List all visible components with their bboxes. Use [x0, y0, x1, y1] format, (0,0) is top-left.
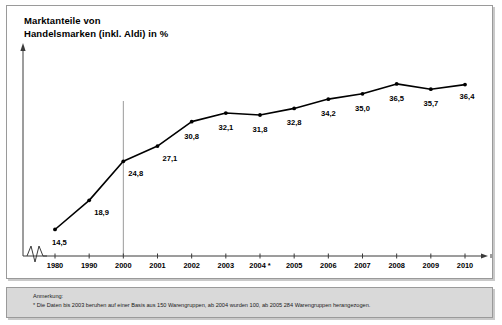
- x-tick-label: 2000: [115, 261, 131, 270]
- data-value-label: 31,8: [253, 125, 268, 134]
- data-value-label: 24,8: [128, 169, 143, 178]
- data-point-marker: [190, 120, 194, 124]
- data-value-label: 14,5: [52, 238, 68, 247]
- footnote-panel: Anmerkung: * Die Daten bis 2003 beruhen …: [6, 287, 493, 318]
- chart-panel: Marktanteile von Handelsmarken (inkl. Al…: [6, 5, 493, 279]
- x-tick-label: 1980: [47, 261, 63, 270]
- data-value-label: 18,9: [94, 208, 109, 217]
- data-value-label: 36,5: [389, 94, 405, 103]
- x-tick-label: 2001: [149, 261, 165, 270]
- x-tick-label: 2004 *: [249, 261, 270, 270]
- x-tick-label: 2008: [388, 261, 404, 270]
- x-tick-label: 2003: [218, 261, 234, 270]
- data-point-marker: [395, 82, 399, 86]
- data-value-label: 32,1: [218, 123, 234, 132]
- data-point-marker: [87, 198, 91, 202]
- x-tick-label: 2006: [320, 261, 336, 270]
- data-point-marker: [121, 159, 125, 163]
- data-point-marker: [224, 111, 228, 115]
- data-point-marker: [258, 113, 262, 117]
- data-value-label: 36,4: [460, 92, 476, 101]
- data-value-label: 34,2: [321, 109, 336, 118]
- x-tick-label: 2005: [286, 261, 302, 270]
- x-tick-label: 2002: [183, 261, 199, 270]
- data-point-marker: [429, 87, 433, 91]
- data-value-label: 35,7: [423, 99, 438, 108]
- data-value-label: 30,8: [184, 132, 199, 141]
- data-value-label: 27,1: [163, 154, 179, 163]
- x-tick-label: 1990: [81, 261, 97, 270]
- data-value-label: 32,8: [287, 118, 302, 127]
- data-point-marker: [463, 83, 467, 87]
- data-point-marker: [53, 228, 57, 232]
- x-tick-label: 2010: [457, 261, 473, 270]
- x-tick-label: 2009: [423, 261, 439, 270]
- chart-screenshot: Marktanteile von Handelsmarken (inkl. Al…: [0, 0, 502, 325]
- footnote-label: Anmerkung:: [33, 293, 63, 299]
- line-chart-plot: 1980199020002001200220032004 *2005200620…: [7, 6, 494, 280]
- data-point-marker: [326, 97, 330, 101]
- x-tick-label: 2007: [354, 261, 370, 270]
- data-point-marker: [361, 92, 365, 96]
- data-value-label: 35,0: [355, 104, 370, 113]
- data-point-marker: [156, 144, 160, 148]
- footnote-text: * Die Daten bis 2003 beruhen auf einer B…: [33, 302, 370, 308]
- data-point-marker: [292, 107, 296, 111]
